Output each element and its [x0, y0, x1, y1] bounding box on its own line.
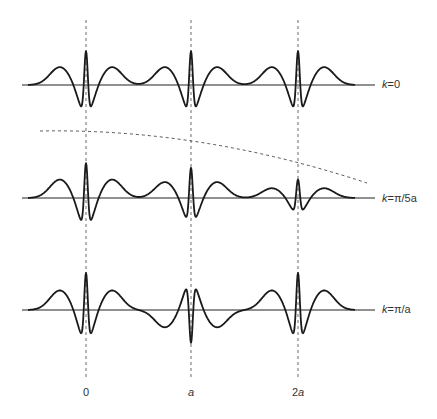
x-tick-2a: 2a [292, 386, 304, 398]
curve-kpia [28, 273, 355, 343]
envelope-dashed-line [40, 131, 367, 183]
label-k-pi-a: k=π/a [382, 303, 411, 315]
row-baselines [22, 85, 375, 310]
envelope-curve [40, 131, 367, 183]
wavefunction-curves [28, 51, 355, 343]
bloch-wavefunction-diagram [0, 0, 437, 419]
x-tick-a: a [188, 386, 194, 398]
curve-k0 [28, 51, 355, 106]
label-k-0: k=0 [382, 78, 400, 90]
x-tick-0: 0 [83, 386, 89, 398]
curve-kpi5a [28, 163, 355, 220]
label-k-pi-5a: k=π/5a [382, 192, 417, 204]
